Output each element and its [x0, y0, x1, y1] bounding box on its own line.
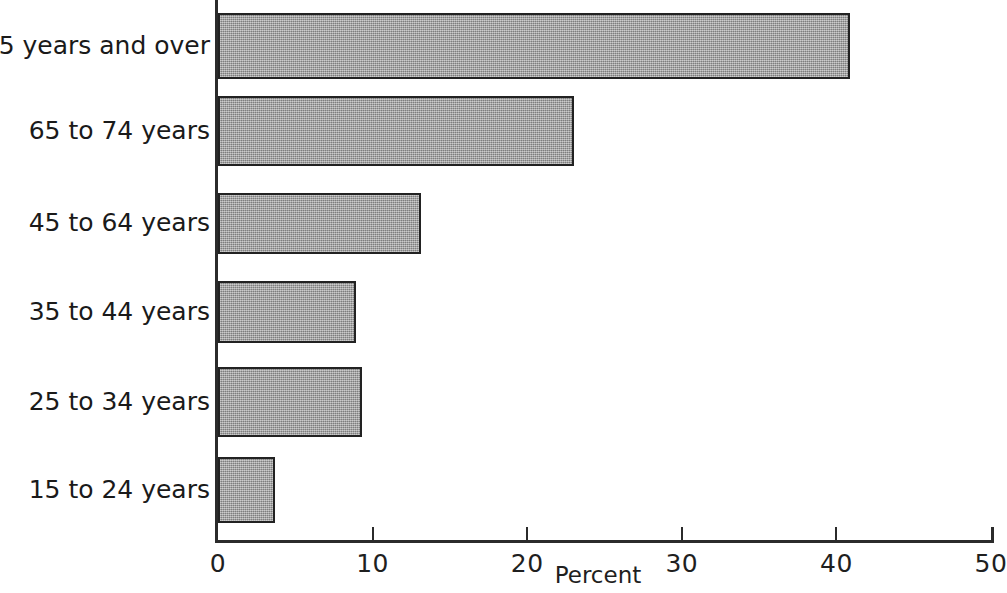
- bar-chart: 75 years and over 65 to 74 years 45 to 6…: [0, 0, 1007, 593]
- x-axis-tick: [372, 527, 374, 540]
- bar: [218, 281, 356, 343]
- x-axis-line: [215, 540, 994, 543]
- x-axis-tick: [526, 527, 528, 540]
- category-label: 45 to 64 years: [0, 209, 210, 237]
- bar: [218, 193, 421, 254]
- x-axis-tick: [835, 527, 837, 540]
- category-label: 75 years and over: [0, 32, 210, 60]
- category-label: 15 to 24 years: [0, 476, 210, 504]
- category-label: 65 to 74 years: [0, 117, 210, 145]
- bar: [218, 13, 850, 79]
- x-axis-endcap: [991, 527, 994, 543]
- y-axis-line: [215, 0, 218, 543]
- bar: [218, 457, 275, 523]
- plot-area: [218, 0, 991, 540]
- bar: [218, 367, 362, 437]
- x-axis-title: Percent: [538, 562, 658, 588]
- x-tick-label: 10: [338, 549, 408, 579]
- x-tick-label: 0: [183, 549, 253, 579]
- x-tick-label: 40: [801, 549, 871, 579]
- x-axis-tick: [681, 527, 683, 540]
- category-label: 25 to 34 years: [0, 388, 210, 416]
- category-label: 35 to 44 years: [0, 298, 210, 326]
- bar: [218, 96, 574, 166]
- x-tick-label: 50: [956, 549, 1007, 579]
